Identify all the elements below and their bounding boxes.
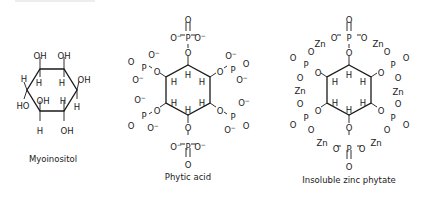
atom-label: O xyxy=(346,123,353,133)
atom-label: H xyxy=(21,74,27,84)
atom-label: P xyxy=(185,142,190,152)
atom-label: Zn xyxy=(370,138,381,148)
atom-label: O− xyxy=(134,94,146,105)
atom-label: H xyxy=(199,98,205,108)
atom-label: O xyxy=(290,53,297,63)
atom-label: OH xyxy=(33,51,46,61)
bond-line xyxy=(160,103,166,107)
atom-label: OH xyxy=(36,96,49,106)
atom-label: O xyxy=(217,106,224,116)
atom-label: O xyxy=(346,48,353,58)
atom-label: H xyxy=(171,77,177,87)
atom-label: P xyxy=(141,63,146,73)
atom-label: HO xyxy=(16,101,29,111)
atom-label: O xyxy=(217,67,224,77)
atom-label: O xyxy=(395,73,402,83)
atom-label: O xyxy=(403,120,410,130)
atom-label: O− xyxy=(148,49,160,60)
atom-label: Zn xyxy=(372,39,383,49)
atom-label: O xyxy=(185,160,192,170)
atom-label: O− xyxy=(132,74,144,85)
atom-label: OH xyxy=(57,51,70,61)
atom-label: O xyxy=(128,57,135,67)
atom-label: O xyxy=(361,33,368,43)
atom-label: O− xyxy=(225,50,237,61)
bond-line xyxy=(321,73,327,77)
caption-zinc-phytate: Insoluble zinc phytate xyxy=(302,175,395,185)
structures-svg: OHOHHHHOHHOHOHHHOH OO−PO−OHHHHHHOPO−OO−O… xyxy=(0,0,427,197)
atom-label: H xyxy=(171,98,177,108)
phytic-acid-structure: OO−PO−OHHHHHHOPO−OO−OPO−OO−OPO−OO−OPO−OO… xyxy=(128,15,250,170)
atom-label: H xyxy=(346,105,352,115)
atom-label: O xyxy=(308,47,315,57)
bond-line xyxy=(149,66,152,68)
atom-label: H xyxy=(346,70,352,80)
atom-label: Zn xyxy=(294,86,305,96)
atom-label: P xyxy=(303,60,308,70)
atom-label: P xyxy=(390,113,395,123)
atom-label: P xyxy=(230,112,235,122)
atom-label: O xyxy=(331,33,338,43)
atom-label: O xyxy=(395,99,402,109)
bond-line xyxy=(224,66,227,68)
caption-phytic-acid: Phytic acid xyxy=(165,172,211,182)
bond-line xyxy=(371,73,377,77)
atom-label: H xyxy=(199,77,205,87)
atom-label: O xyxy=(315,68,322,78)
atom-label: O− xyxy=(147,122,159,133)
atom-label: O xyxy=(185,15,192,25)
atom-label: O xyxy=(243,121,250,131)
atom-label: H xyxy=(59,78,65,88)
atom-label: O xyxy=(297,99,304,109)
atom-label: O− xyxy=(224,124,236,135)
atom-label: O xyxy=(333,144,340,154)
atom-label: H xyxy=(185,70,191,80)
bond-line xyxy=(371,103,377,107)
atom-label: O− xyxy=(194,141,206,152)
atom-label: Zn xyxy=(314,39,325,49)
atom-label: OH xyxy=(77,75,90,85)
atom-label: O xyxy=(243,59,250,69)
cyclohexane-ring xyxy=(27,69,77,111)
atom-label: O xyxy=(378,68,385,78)
atom-label: Zn xyxy=(392,87,403,97)
bond-line xyxy=(160,73,166,77)
atom-label: H xyxy=(60,96,66,106)
myoinositol-structure: OHOHHHHOHHOHOHHHOH xyxy=(16,51,90,136)
bond-line xyxy=(224,112,227,114)
chemical-structures-figure: OHOHHHHOHHOHOHHHOH OO−PO−OHHHHHHOPO−OO−O… xyxy=(0,0,427,197)
atom-label: O xyxy=(378,106,385,116)
atom-label: O− xyxy=(238,97,250,108)
atom-label: O− xyxy=(170,32,182,43)
atom-label: H xyxy=(360,77,366,87)
atom-label: P xyxy=(185,33,190,43)
atom-label: H xyxy=(185,105,191,115)
atom-label: H xyxy=(332,98,338,108)
atom-label: O xyxy=(297,73,304,83)
atom-label: O xyxy=(346,15,353,25)
caption-myoinositol: Myoinositol xyxy=(29,154,77,164)
bond-line xyxy=(24,90,27,99)
atom-label: O xyxy=(403,53,410,63)
atom-label: O xyxy=(308,125,315,135)
atom-label: O xyxy=(384,47,391,57)
atom-label: H xyxy=(37,126,43,136)
atom-label: H xyxy=(74,102,80,112)
atom-label: H xyxy=(36,78,42,88)
atom-label: P xyxy=(141,111,146,121)
atom-label: O− xyxy=(236,74,248,85)
atom-label: O xyxy=(185,48,192,58)
atom-label: O xyxy=(315,106,322,116)
atom-label: O− xyxy=(194,32,206,43)
atom-label: Zn xyxy=(316,138,327,148)
atom-label: P xyxy=(303,113,308,123)
atom-label: P xyxy=(230,65,235,75)
atom-label: O xyxy=(290,120,297,130)
atom-label: O− xyxy=(170,141,182,152)
atom-label: P xyxy=(346,144,351,154)
atom-label: H xyxy=(332,77,338,87)
atom-label: O xyxy=(359,144,366,154)
bond-line xyxy=(210,73,216,77)
zinc-phytate-structure: OPOOZnZnOOOPOOPOOOOZnZnOOHHHHHHOPOOOPOOZ… xyxy=(290,15,410,172)
atom-label: O xyxy=(185,123,192,133)
